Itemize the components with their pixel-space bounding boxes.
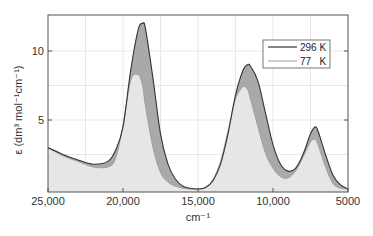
x-tick-label: 20,000 (106, 195, 140, 207)
chart-container: 25,00020,00015,00010,0005000 510 cm⁻¹ ε … (0, 0, 373, 236)
x-tick-label: 5000 (336, 195, 360, 207)
y-tick-label: 10 (32, 45, 44, 57)
x-tick-label: 25,000 (31, 195, 65, 207)
x-tick-label: 10,000 (256, 195, 290, 207)
legend-label-77k: 77 K (300, 56, 326, 67)
legend-label-296k: 296 K (300, 42, 326, 53)
y-tick-label: 5 (38, 114, 44, 126)
x-axis-title: cm⁻¹ (186, 211, 211, 223)
legend: 296 K 77 K (263, 40, 330, 68)
y-axis-title: ε (dm³ mol⁻¹cm⁻¹) (12, 66, 24, 155)
x-tick-label: 15,000 (181, 195, 215, 207)
absorption-spectrum-chart: 25,00020,00015,00010,0005000 510 cm⁻¹ ε … (0, 0, 373, 236)
